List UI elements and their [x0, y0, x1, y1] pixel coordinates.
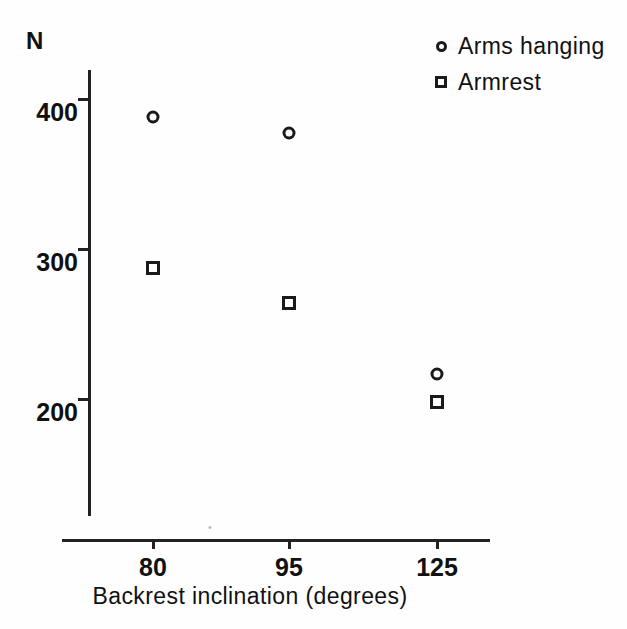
scan-speck: •: [208, 521, 212, 533]
data-point-arms-hanging-95: [283, 127, 296, 140]
y-tick-label-400: 400: [6, 98, 78, 127]
data-point-armrest-80: [146, 261, 160, 275]
x-tick-label-125: 125: [416, 553, 458, 582]
y-tick-400: 400: [78, 98, 90, 101]
circle-marker-icon: [424, 41, 458, 52]
x-tick-125: [436, 540, 439, 549]
legend-label-armrest: Armrest: [458, 69, 541, 96]
y-axis-title: N: [26, 27, 43, 55]
x-tick-80: [152, 540, 155, 549]
x-tick-label-80: 80: [139, 553, 167, 582]
y-tick-label-300: 300: [6, 248, 78, 277]
x-tick-label-95: 95: [275, 553, 303, 582]
x-tick-95: [288, 540, 291, 549]
data-point-arms-hanging-125: [431, 368, 444, 381]
data-point-armrest-125: [430, 395, 444, 409]
y-tick-300: 300: [78, 248, 90, 251]
x-axis-line: [62, 539, 490, 542]
y-tick-label-200: 200: [6, 398, 78, 427]
y-tick-200: 200: [78, 398, 90, 401]
data-point-armrest-95: [282, 296, 296, 310]
y-axis-line: [88, 70, 91, 516]
square-marker-icon: [424, 76, 458, 88]
legend: Arms hanging Armrest: [424, 28, 605, 100]
data-point-arms-hanging-80: [147, 111, 160, 124]
x-axis-title: Backrest inclination (degrees): [0, 583, 500, 610]
legend-label-arms-hanging: Arms hanging: [458, 33, 605, 60]
scatter-chart-figure: N 400 300 200 80 95 125 Backrest inclina…: [0, 0, 627, 629]
legend-item-armrest: Armrest: [424, 64, 605, 100]
legend-item-arms-hanging: Arms hanging: [424, 28, 605, 64]
